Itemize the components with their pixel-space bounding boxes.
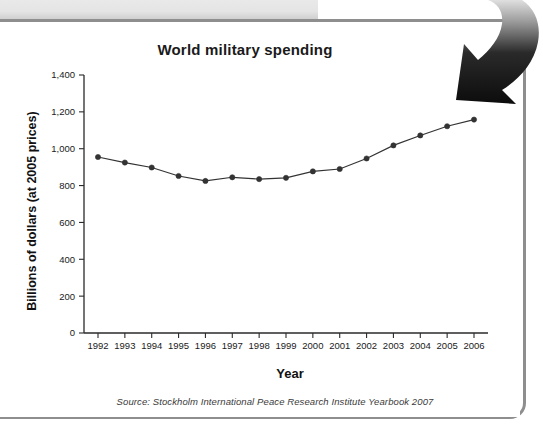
x-tick-label: 1998 [249, 340, 270, 351]
data-point-marker [257, 177, 262, 182]
x-tick-label: 2002 [356, 340, 377, 351]
y-tick-label: 1,400 [51, 69, 75, 80]
y-tick-label: 600 [59, 217, 75, 228]
data-point-marker [283, 175, 288, 180]
data-point-marker [471, 117, 476, 122]
data-point-marker [337, 166, 342, 171]
x-tick-label: 1999 [275, 340, 296, 351]
data-point-marker [176, 173, 181, 178]
x-tick-label: 2004 [410, 340, 431, 351]
x-tick-label: 1993 [114, 340, 135, 351]
data-point-marker [445, 124, 450, 129]
y-tick-label: 1,000 [51, 143, 75, 154]
data-point-marker [418, 133, 423, 138]
page-top-band [0, 0, 318, 19]
x-tick-label: 2001 [329, 340, 350, 351]
data-point-marker [95, 154, 100, 159]
data-point-marker [230, 175, 235, 180]
x-tick-label: 1996 [195, 340, 216, 351]
source-note: Source: Stockholm International Peace Re… [60, 396, 490, 407]
chart-container: World military spending Billions of doll… [0, 19, 528, 419]
y-tick-label: 400 [59, 254, 75, 265]
data-point-marker [310, 169, 315, 174]
x-tick-label: 2003 [383, 340, 404, 351]
data-series-markers [95, 117, 476, 184]
data-point-marker [122, 160, 127, 165]
x-axis-ticks: 1992199319941995199619971998199920002001… [87, 333, 484, 351]
data-point-marker [149, 165, 154, 170]
y-axis-ticks: 02004006008001,0001,2001,400 [51, 69, 84, 338]
y-tick-label: 1,200 [51, 106, 75, 117]
x-tick-label: 2006 [463, 340, 484, 351]
x-tick-label: 2000 [302, 340, 323, 351]
x-tick-label: 2005 [437, 340, 458, 351]
data-point-marker [364, 156, 369, 161]
data-point-marker [203, 178, 208, 183]
y-tick-label: 800 [59, 180, 75, 191]
x-tick-label: 1997 [222, 340, 243, 351]
page-top-band-right [318, 0, 543, 19]
data-series-line [98, 120, 474, 181]
line-chart-plot: 02004006008001,0001,2001,400 19921993199… [0, 19, 528, 389]
y-tick-label: 200 [59, 291, 75, 302]
x-tick-label: 1995 [168, 340, 189, 351]
data-point-marker [391, 143, 396, 148]
y-tick-label: 0 [70, 327, 75, 338]
x-tick-label: 1994 [141, 340, 162, 351]
x-tick-label: 1992 [87, 340, 108, 351]
